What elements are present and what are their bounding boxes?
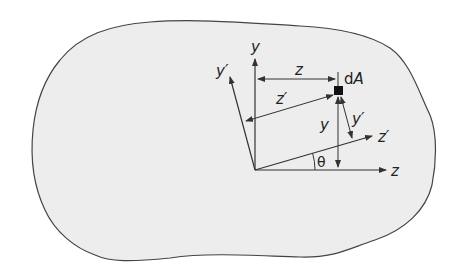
z-axis-label: z [390, 162, 400, 180]
diagram-svg: y z y′ z′ z z′ y y′ dA θ [0, 0, 463, 271]
dim-z-label: z [294, 61, 304, 79]
theta-label: θ [317, 154, 326, 170]
y-axis-label: y [250, 38, 261, 56]
dim-y-prime-label: y′ [351, 110, 365, 128]
dA-label-A: A [353, 70, 364, 88]
dim-z-prime-label: z′ [275, 90, 288, 108]
rotated-axes-diagram: y z y′ z′ z z′ y y′ dA θ [0, 0, 463, 271]
area-element-dA [334, 86, 343, 95]
cross-section-region [32, 21, 436, 261]
y-prime-axis-label: y′ [215, 62, 229, 80]
dA-label-d: d [344, 70, 354, 88]
z-prime-axis-label: z′ [377, 128, 390, 146]
dim-y-label: y [319, 116, 330, 134]
dA-label: dA [344, 70, 364, 88]
